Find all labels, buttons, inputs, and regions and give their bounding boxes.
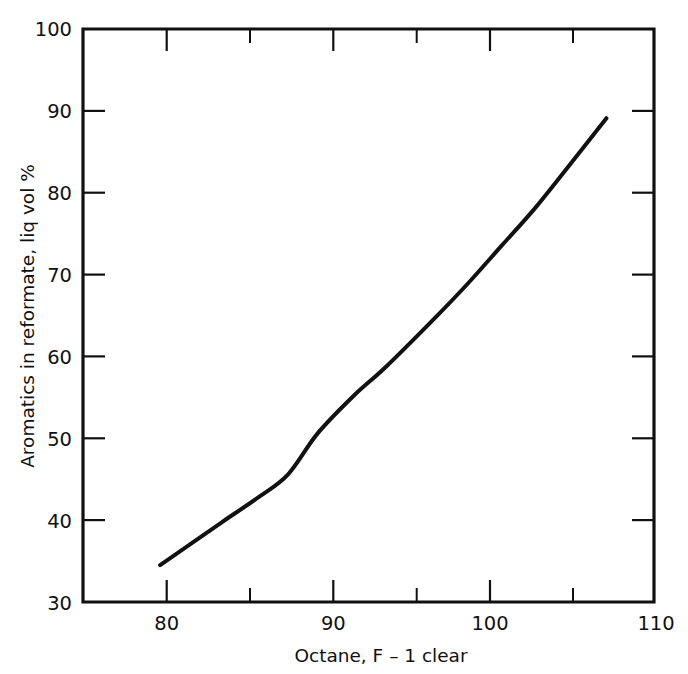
aromatics-vs-octane-chart: 100 90 80 70 60 50 40 30 80 90 100 110 O… [0, 0, 688, 674]
chart-figure: 100 90 80 70 60 50 40 30 80 90 100 110 O… [0, 0, 688, 674]
plot-area-background [83, 29, 654, 602]
y-tick-label-80: 80 [47, 182, 72, 205]
x-tick-label-90: 90 [321, 612, 346, 635]
x-axis-title: Octane, F – 1 clear [294, 645, 468, 666]
y-tick-label-40: 40 [47, 510, 72, 533]
y-tick-label-60: 60 [47, 346, 72, 369]
y-tick-label-70: 70 [47, 264, 72, 287]
y-tick-label-100: 100 [35, 18, 72, 41]
x-tick-label-100: 100 [471, 612, 508, 635]
x-tick-label-80: 80 [154, 612, 179, 635]
y-axis-title: Aromatics in reformate, liq vol % [17, 164, 38, 468]
x-tick-label-110: 110 [637, 612, 674, 635]
y-tick-label-50: 50 [47, 428, 72, 451]
y-tick-label-30: 30 [47, 592, 72, 615]
y-tick-label-90: 90 [47, 100, 72, 123]
